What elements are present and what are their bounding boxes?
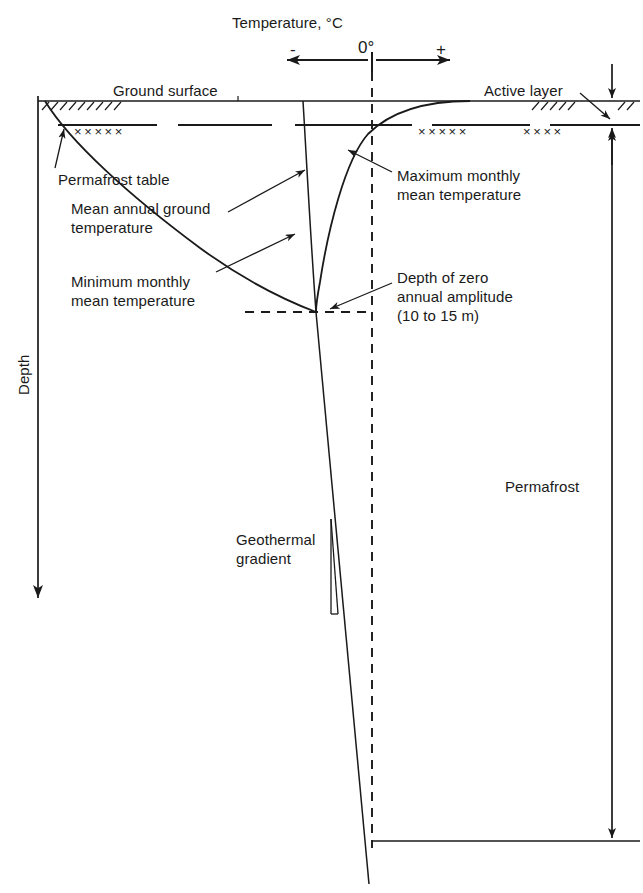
label-geothermal-gradient-line1: Geothermal — [236, 530, 315, 549]
permafrost-table-marks-a: ××××× — [74, 122, 125, 141]
label-mean-annual-ground-temperature-line1: Mean annual ground — [71, 199, 210, 218]
ground-surface-group — [38, 101, 640, 110]
geothermal-gradient-line — [316, 312, 369, 884]
axis-zero-label: 0° — [358, 38, 374, 57]
label-depth: Depth — [14, 354, 33, 395]
label-depth-zero-amplitude-line1: Depth of zero — [397, 268, 488, 287]
pointer-active-layer — [580, 93, 610, 119]
permafrost-table-marks-b: ××××× — [418, 122, 469, 141]
permafrost-table-marks-c: ×××× — [523, 122, 564, 141]
curve-mean-annual-ground-temperature — [303, 101, 316, 312]
label-minimum-monthly-line1: Minimum monthly — [71, 272, 190, 291]
label-maximum-monthly-line1: Maximum monthly — [397, 166, 520, 185]
label-minimum-monthly-line2: mean temperature — [71, 291, 195, 310]
label-permafrost: Permafrost — [505, 477, 579, 496]
label-maximum-monthly-line2: mean temperature — [397, 185, 521, 204]
label-mean-annual-ground-temperature-line2: temperature — [71, 218, 153, 237]
pointer-minimum-monthly-mean — [216, 234, 295, 272]
label-geothermal-gradient-line2: gradient — [236, 549, 291, 568]
axis-positive-sign: + — [436, 40, 446, 59]
axis-negative-sign: - — [290, 40, 296, 59]
label-depth-zero-amplitude-line2: annual amplitude — [397, 287, 513, 306]
pointer-depth-zero-amplitude — [330, 283, 392, 309]
axis-title: Temperature, °C — [232, 13, 343, 32]
label-active-layer: Active layer — [484, 81, 563, 100]
permafrost-temperature-diagram: Temperature, °C - 0° + Ground surface Ac… — [0, 0, 643, 893]
pointer-maximum-monthly-mean — [348, 150, 392, 172]
ground-hatch-left — [42, 102, 121, 110]
ground-hatch-right — [532, 102, 634, 110]
label-permafrost-table: Permafrost table — [58, 170, 170, 189]
label-ground-surface: Ground surface — [113, 81, 218, 100]
label-depth-zero-amplitude-line3: (10 to 15 m) — [397, 306, 479, 325]
pointer-mean-annual-ground-temperature — [228, 170, 305, 212]
pointer-permafrost-table — [55, 129, 64, 168]
